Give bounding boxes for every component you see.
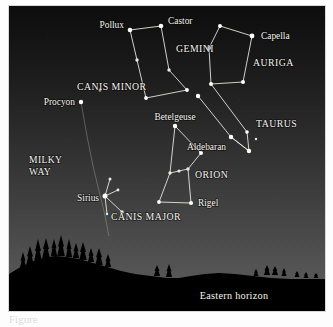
star-cma-2 — [109, 178, 112, 181]
tree-2 — [34, 239, 42, 261]
constellation-line-taurus-v — [231, 137, 249, 151]
star-aldebaran — [229, 135, 233, 139]
tree-14 — [254, 269, 259, 276]
milky-way-label-way: WAY — [29, 166, 51, 177]
star-castor — [159, 24, 164, 29]
tree-13 — [166, 264, 172, 277]
milky-way-trace — [81, 102, 109, 236]
tree-5 — [57, 235, 65, 256]
horizon-label-eastern-horizon: Eastern horizon — [200, 290, 269, 301]
sky-chart-svg: PolluxCastorCapellaProcyonBetelgeuseAlde… — [9, 6, 325, 311]
tree-10 — [95, 248, 103, 265]
milky-way-label-milky: MILKY — [29, 154, 62, 165]
star-label-capella: Capella — [261, 31, 290, 41]
constellation-line-orion — [159, 126, 201, 203]
star-taurus-3 — [255, 138, 257, 140]
star-cma-3 — [117, 189, 120, 192]
star-label-sirius: Sirius — [77, 193, 99, 203]
star-capella — [250, 34, 255, 39]
tree-12 — [154, 265, 160, 276]
star-saiph — [157, 200, 161, 204]
star-taurus-2 — [245, 130, 249, 134]
star-auriga-4 — [209, 82, 213, 86]
star-auriga-2 — [218, 24, 222, 28]
star-rigel — [189, 201, 193, 205]
tree-18 — [295, 271, 300, 277]
tree-20 — [314, 273, 319, 278]
tree-11 — [105, 254, 111, 267]
star-gemini-5 — [185, 88, 189, 92]
tree-1 — [26, 246, 34, 265]
constellation-line-canis-major — [105, 179, 122, 212]
tree-17 — [282, 268, 287, 276]
star-belt-3 — [186, 167, 189, 170]
constellation-label-auriga: AURIGA — [253, 57, 294, 68]
star-label-procyon: Procyon — [44, 97, 76, 107]
constellation-line-taurus — [198, 84, 249, 151]
constellation-label-orion: ORION — [195, 169, 228, 180]
caption-strip: Figure — [9, 313, 325, 326]
constellation-label-taurus: TAURUS — [256, 118, 297, 129]
milky-way-band — [81, 102, 109, 236]
tree-15 — [264, 265, 270, 275]
constellation-label-gemini: GEMINI — [176, 43, 214, 54]
tree-6 — [66, 239, 72, 257]
star-label-rigel: Rigel — [198, 198, 219, 208]
star-auriga-5 — [241, 80, 245, 84]
tree-0 — [20, 252, 26, 268]
star-label-castor: Castor — [168, 16, 193, 26]
tree-4 — [51, 239, 57, 256]
star-chart-figure: PolluxCastorCapellaProcyonBetelgeuseAlde… — [0, 0, 333, 327]
star-procyon — [79, 100, 83, 104]
star-gemini-4 — [167, 68, 170, 71]
star-taurus-apex — [247, 149, 251, 153]
star-label-betelgeuse: Betelgeuse — [154, 112, 195, 122]
tree-16 — [272, 266, 278, 275]
star-pollux — [128, 28, 133, 33]
star-sirius — [103, 194, 108, 199]
constellation-line-auriga — [209, 26, 252, 84]
tree-19 — [304, 272, 309, 278]
ground-silhouette — [9, 235, 325, 311]
constellation-label-canis-minor: CANIS MINOR — [77, 81, 146, 92]
hill-silhouette — [9, 256, 325, 311]
tree-8 — [79, 242, 87, 260]
star-label-aldebaran: Aldebaran — [187, 142, 226, 152]
tree-9 — [88, 248, 94, 262]
star-cma-5 — [106, 213, 108, 215]
sky-panel: PolluxCastorCapellaProcyonBetelgeuseAlde… — [9, 6, 325, 311]
star-pleiades — [196, 94, 200, 98]
star-betelgeuse — [173, 124, 177, 128]
star-belt-1 — [168, 171, 171, 174]
constellation-label-canis-major: CANIS MAJOR — [111, 211, 181, 222]
star-belt-2 — [177, 169, 180, 172]
tree-7 — [73, 243, 79, 258]
star-label-pollux: Pollux — [100, 20, 125, 30]
caption-text: Figure — [9, 313, 325, 326]
star-gemini-3 — [135, 58, 138, 61]
tree-3 — [42, 238, 50, 258]
star-gemini-6 — [144, 96, 148, 100]
